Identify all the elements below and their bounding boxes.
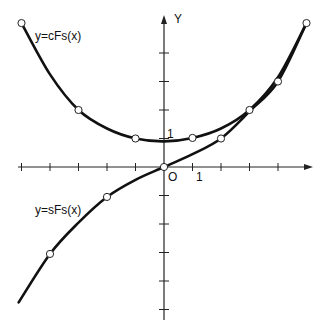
data-point-marker [103, 193, 110, 200]
data-point-marker [217, 135, 224, 142]
data-point-marker [18, 19, 25, 26]
data-point-marker [189, 134, 196, 141]
origin-label: O [168, 171, 177, 183]
data-point-marker [132, 135, 139, 142]
data-point-marker [75, 106, 82, 113]
data-point-marker [246, 106, 253, 113]
data-point-marker [46, 250, 53, 257]
series-label-sfs: y=sFs(x) [35, 204, 81, 216]
data-point-marker [160, 163, 167, 170]
sfs-curve [19, 23, 307, 302]
y-axis-arrow-icon [161, 15, 167, 24]
data-point-marker [274, 78, 281, 85]
series-label-cfs: y=cFs(x) [35, 30, 81, 42]
x-tick-label-1: 1 [196, 171, 203, 183]
curves [19, 23, 307, 302]
y-tick-label-1: 1 [167, 128, 174, 140]
x-axis-arrow-icon [304, 164, 313, 170]
function-plot [0, 0, 331, 334]
y-axis-label: Y [174, 13, 182, 25]
data-point-marker [303, 19, 310, 26]
